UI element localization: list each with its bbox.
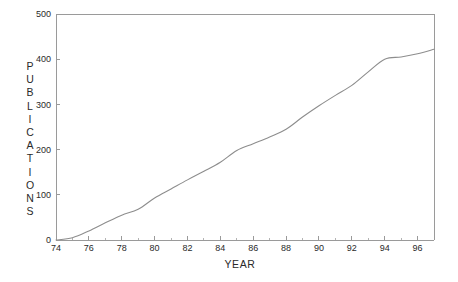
y-tick-label: 300 bbox=[36, 100, 51, 110]
y-axis-title-char: I bbox=[29, 166, 32, 178]
y-tick-label: 500 bbox=[36, 9, 51, 19]
x-tick-label: 76 bbox=[84, 243, 94, 253]
x-tick-label: 92 bbox=[347, 243, 357, 253]
y-axis-title-char: U bbox=[26, 73, 34, 85]
y-axis-title-char: B bbox=[26, 86, 33, 98]
y-tick-label: 0 bbox=[46, 235, 51, 245]
y-axis-title-char: C bbox=[26, 126, 34, 138]
y-axis-ticks bbox=[56, 14, 60, 240]
y-tick-label: 400 bbox=[36, 54, 51, 64]
y-axis-title-char: I bbox=[29, 113, 32, 125]
x-axis-title: YEAR bbox=[225, 258, 256, 270]
x-axis-ticks bbox=[56, 236, 418, 240]
y-axis-tick-labels: 0100200300400500 bbox=[36, 9, 51, 245]
axes-group bbox=[56, 14, 434, 240]
x-tick-label: 96 bbox=[413, 243, 423, 253]
x-tick-label: 90 bbox=[314, 243, 324, 253]
x-axis-tick-labels: 747678808284868890929496 bbox=[51, 243, 423, 253]
x-tick-label: 82 bbox=[182, 243, 192, 253]
y-axis-title-char: O bbox=[26, 179, 34, 191]
x-tick-label: 80 bbox=[150, 243, 160, 253]
y-tick-label: 200 bbox=[36, 145, 51, 155]
x-tick-label: 74 bbox=[51, 243, 61, 253]
y-axis-title-char: S bbox=[26, 205, 33, 217]
y-tick-label: 100 bbox=[36, 190, 51, 200]
x-tick-label: 88 bbox=[281, 243, 291, 253]
publications-line-chart: 747678808284868890929496 010020030040050… bbox=[0, 0, 458, 282]
chart-canvas: 747678808284868890929496 010020030040050… bbox=[0, 0, 458, 282]
x-tick-label: 86 bbox=[248, 243, 258, 253]
y-axis-title: PUBLICATIONS bbox=[26, 60, 34, 217]
y-axis-title-char: P bbox=[26, 60, 33, 72]
publications-line bbox=[56, 49, 434, 240]
y-axis-title-char: N bbox=[26, 192, 34, 204]
y-axis-title-char: A bbox=[26, 139, 33, 151]
data-series-group bbox=[56, 49, 434, 240]
x-tick-label: 94 bbox=[380, 243, 390, 253]
y-axis-title-char: L bbox=[27, 100, 33, 112]
y-axis-title-char: T bbox=[27, 152, 34, 164]
x-tick-label: 84 bbox=[215, 243, 225, 253]
x-tick-label: 78 bbox=[117, 243, 127, 253]
